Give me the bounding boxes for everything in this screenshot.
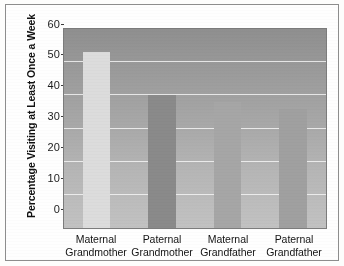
x-axis-label: MaternalGrandmother (63, 233, 129, 266)
y-axis-tick-label: 40 (26, 80, 60, 90)
y-axis-tick-label: 10 (26, 173, 60, 183)
figure-root: Percentage Visiting at Least Once a Week… (0, 0, 344, 266)
figure-frame: Percentage Visiting at Least Once a Week… (5, 4, 339, 261)
bar (83, 52, 111, 228)
x-axis-label: PaternalGrandfather (261, 233, 327, 266)
bars-layer (64, 29, 326, 228)
bar (279, 109, 307, 228)
x-axis-label-line2: Grandmother (63, 246, 129, 259)
bar (148, 95, 176, 228)
x-axis-label-line1: Paternal (143, 233, 182, 245)
x-axis-label: MaternalGrandfather (195, 233, 261, 266)
plot-area (63, 28, 327, 229)
y-axis-tick-label: 50 (26, 49, 60, 59)
x-axis-label: PaternalGrandmother (129, 233, 195, 266)
y-axis-tick-label: 60 (26, 19, 60, 29)
x-axis-label-line2: Grandmother (129, 246, 195, 259)
x-axis-label-group: MaternalGrandmotherPaternalGrandmotherMa… (63, 233, 327, 266)
x-axis-label-line2: Grandfather (195, 246, 261, 259)
bar (214, 102, 242, 228)
x-axis-label-line1: Maternal (208, 233, 248, 245)
y-axis-tick-label: 30 (26, 111, 60, 121)
x-axis-label-line1: Maternal (76, 233, 116, 245)
x-axis-label-line2: Grandfather (261, 246, 327, 259)
y-axis-tick-group: 60 50 40 30 20 10 0 (24, 5, 60, 266)
x-axis-label-line1: Paternal (275, 233, 314, 245)
y-axis-tick-mark (61, 24, 64, 25)
y-axis-tick-label: 0 (26, 204, 60, 214)
y-axis-tick-label: 20 (26, 142, 60, 152)
